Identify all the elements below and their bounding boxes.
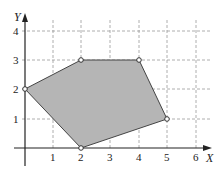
x-tick: 6 (193, 151, 199, 163)
coordinate-diagram: Y X 1 2 3 4 5 6 1 2 3 4 (0, 0, 221, 172)
x-tick: 5 (164, 151, 170, 163)
shaded-polygon (25, 60, 167, 148)
x-tick: 2 (78, 151, 84, 163)
x-tick: 3 (107, 151, 113, 163)
y-tick: 4 (13, 25, 19, 37)
y-tick: 3 (13, 54, 19, 66)
x-axis-label: X (205, 151, 214, 165)
y-tick: 2 (13, 83, 19, 95)
y-tick: 1 (13, 113, 19, 125)
x-tick: 4 (136, 151, 142, 163)
y-axis-label: Y (14, 10, 22, 24)
y-axis-arrow-icon (22, 13, 28, 22)
x-tick: 1 (50, 151, 56, 163)
